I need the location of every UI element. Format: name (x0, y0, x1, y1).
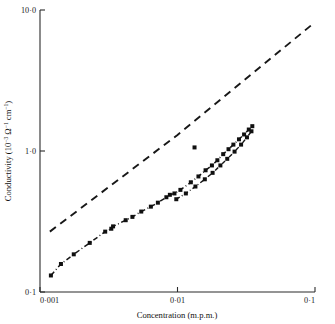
data-point-marker (174, 197, 178, 201)
data-point-marker (233, 150, 237, 154)
y-tick-label: 0·1 (25, 288, 36, 297)
data-point-marker (249, 129, 253, 133)
y-axis-title: Conductivity (10−3 Ω−1 cm−1) (3, 101, 13, 202)
series-outlier-point (193, 145, 197, 149)
data-point-marker (88, 241, 92, 245)
data-point-marker (193, 185, 197, 189)
series-line-reference-line (50, 24, 312, 231)
data-point-marker (196, 174, 200, 178)
data-point-marker (49, 273, 53, 277)
data-point-marker (210, 163, 214, 167)
data-point-marker (218, 163, 222, 167)
series-reference-line (50, 24, 312, 231)
y-axis-title-end: ) (3, 101, 13, 104)
y-axis-title-main: Conductivity (10 (3, 143, 13, 201)
data-point-marker (172, 191, 176, 195)
x-axis-title: Concentration (m.p.m.) (137, 310, 218, 320)
y-tick-label: 10·0 (21, 6, 36, 15)
data-point-marker (156, 201, 160, 205)
data-point-marker (139, 210, 143, 214)
data-point-marker (193, 145, 197, 149)
data-point-marker (124, 218, 128, 222)
data-point-marker (204, 168, 208, 172)
data-point-marker (72, 252, 76, 256)
y-tick-label: 1·0 (25, 147, 36, 156)
data-point-marker (239, 143, 243, 147)
data-point-marker (245, 135, 249, 139)
data-point-marker (211, 171, 215, 175)
series-measured-branch-main (49, 124, 254, 277)
data-point-marker (225, 157, 229, 161)
conductivity-concentration-chart: 0·11·010·0 0·0010·010·1 Concentration (m… (0, 0, 335, 324)
data-point-marker (178, 188, 182, 192)
data-point-marker (237, 137, 241, 141)
y-axis-ticks (40, 10, 45, 292)
data-point-marker (59, 262, 63, 266)
data-series-layer (49, 24, 312, 277)
series-line-measured-branch-main (51, 126, 252, 275)
data-point-marker (103, 230, 107, 234)
data-point-marker (130, 215, 134, 219)
data-point-marker (250, 124, 254, 128)
x-tick-label: 0·001 (40, 296, 59, 305)
data-point-marker (168, 193, 172, 197)
data-point-marker (215, 158, 219, 162)
data-point-marker (227, 147, 231, 151)
data-point-marker (184, 191, 188, 195)
data-point-marker (189, 180, 193, 184)
x-axis-tick-labels: 0·0010·010·1 (40, 296, 315, 305)
x-axis-ticks (40, 287, 315, 292)
x-tick-label: 0·01 (170, 296, 185, 305)
axis-frame (40, 10, 315, 292)
data-point-marker (149, 205, 153, 209)
y-axis-title-mid2: cm (3, 109, 13, 122)
data-point-marker (111, 224, 115, 228)
y-axis-tick-labels: 0·11·010·0 (21, 6, 36, 297)
data-point-marker (221, 152, 225, 156)
y-axis-title-mid: Ω (3, 128, 13, 137)
data-point-marker (203, 177, 207, 181)
data-point-marker (164, 195, 168, 199)
x-tick-label: 0·1 (304, 296, 315, 305)
data-point-marker (231, 143, 235, 147)
